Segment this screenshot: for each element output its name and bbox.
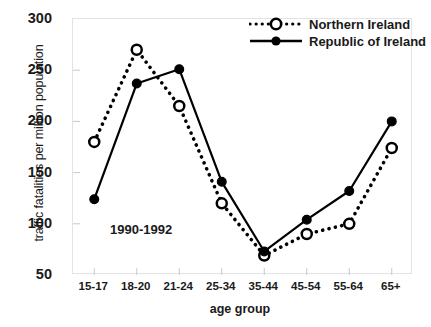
chart-figure: traffic fatalities per million populatio… <box>0 0 431 327</box>
chart-legend: Northern Ireland Republic of Ireland <box>249 17 426 48</box>
legend-item-republic-of-ireland[interactable]: Republic of Ireland <box>249 34 426 48</box>
data-point-55-64 <box>345 187 354 196</box>
data-point-21-24 <box>175 65 184 74</box>
data-point-65+ <box>387 117 396 126</box>
y-tick-150: 150 <box>6 164 52 179</box>
x-tick-65+: 65+ <box>365 281 417 293</box>
filled-circle-solid-icon <box>249 34 303 48</box>
y-tick-50: 50 <box>6 267 52 282</box>
data-point-15-17 <box>90 195 99 204</box>
data-point-55-64 <box>344 219 354 229</box>
data-point-25-34 <box>217 198 227 208</box>
data-point-65+ <box>387 143 397 153</box>
open-circle-dotted-icon <box>249 17 303 31</box>
data-point-18-20 <box>132 79 141 88</box>
legend-item-northern-ireland[interactable]: Northern Ireland <box>249 17 426 31</box>
data-point-15-17 <box>89 137 99 147</box>
data-point-18-20 <box>132 45 142 55</box>
data-point-25-34 <box>217 177 226 186</box>
data-point-35-44 <box>260 247 269 256</box>
x-axis-label: age group <box>60 302 420 316</box>
data-point-21-24 <box>174 101 184 111</box>
y-tick-300: 300 <box>6 11 52 26</box>
data-point-45-54 <box>302 229 312 239</box>
legend-label: Northern Ireland <box>309 18 410 31</box>
data-point-45-54 <box>302 215 311 224</box>
legend-label: Republic of Ireland <box>309 35 426 48</box>
y-tick-250: 250 <box>6 62 52 77</box>
period-annotation: 1990-1992 <box>110 222 172 237</box>
y-tick-100: 100 <box>6 216 52 231</box>
y-axis-label: traffic fatalities per million populatio… <box>32 8 46 278</box>
y-tick-200: 200 <box>6 113 52 128</box>
